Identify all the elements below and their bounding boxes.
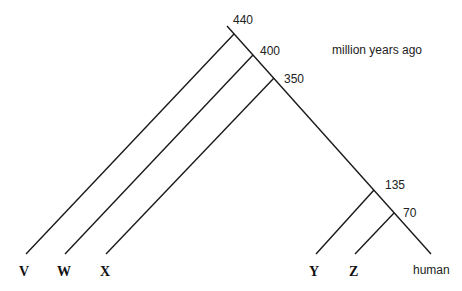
branch-v [26, 34, 234, 254]
branch-x [106, 78, 274, 254]
leaf-label-z: Z [349, 264, 358, 279]
node-label-350: 350 [284, 72, 304, 86]
branch-z [355, 213, 394, 254]
leaf-label-human: human [413, 263, 450, 277]
leaf-label-y: Y [309, 264, 319, 279]
node-label-400: 400 [260, 44, 280, 58]
node-label-70: 70 [403, 206, 417, 220]
phylogenetic-tree-diagram: 440 400 350 135 70 million years ago V W… [0, 0, 462, 291]
node-label-135: 135 [385, 178, 405, 192]
leaf-label-x: X [100, 264, 110, 279]
node-label-440: 440 [233, 13, 253, 27]
branch-trunk-human [227, 26, 431, 254]
branch-y [316, 190, 374, 254]
unit-label: million years ago [332, 43, 422, 57]
branch-w [65, 55, 253, 254]
leaf-label-w: W [57, 264, 71, 279]
leaf-label-v: V [19, 264, 29, 279]
tree-svg: 440 400 350 135 70 million years ago V W… [0, 0, 462, 291]
